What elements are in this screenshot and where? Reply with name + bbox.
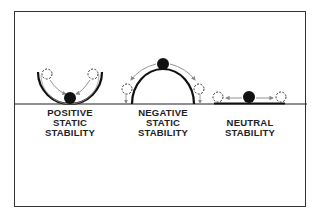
negative-stability-figure: [122, 58, 204, 104]
ball: [157, 58, 169, 70]
label-line: STABILITY: [30, 128, 110, 138]
label-negative-static-stability: NEGATIVE STATIC STABILITY: [123, 108, 203, 138]
label-neutral-stability: NEUTRAL STABILITY: [210, 118, 290, 138]
displaced-ball-right: [88, 69, 98, 79]
displaced-ball-left: [122, 84, 132, 94]
neutral-stability-figure: [213, 91, 286, 104]
ball: [64, 92, 76, 104]
displaced-ball-right: [194, 84, 204, 94]
displaced-ball-right: [276, 92, 286, 102]
return-arrow-left: [50, 80, 66, 94]
dome-surface: [132, 69, 194, 104]
return-arrow-right: [76, 80, 90, 94]
label-positive-static-stability: POSITIVE STATIC STABILITY: [30, 108, 110, 138]
label-line: STABILITY: [210, 128, 290, 138]
positive-stability-figure: [38, 69, 102, 104]
displaced-ball-left: [213, 92, 223, 102]
displaced-ball-left: [42, 69, 52, 79]
label-line: STABILITY: [123, 128, 203, 138]
ball: [243, 91, 255, 103]
